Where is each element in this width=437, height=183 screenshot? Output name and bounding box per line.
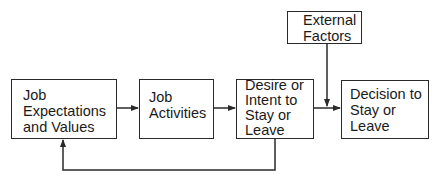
node-decision-label: Decision to Stay or Leave	[350, 86, 422, 134]
arrow-feedback-loop	[63, 138, 275, 170]
node-job-activities-label: Job Activities	[149, 89, 206, 121]
node-external-factors-label: External Factors	[303, 12, 356, 44]
node-desire-intent-label: Desire or Intent to Stay or Leave	[245, 78, 304, 138]
node-job-expectations-label: Job Expectations and Values	[23, 87, 106, 135]
